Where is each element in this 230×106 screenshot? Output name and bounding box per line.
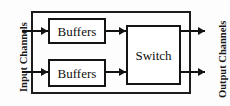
switch-block: Switch [126, 25, 181, 85]
output-arrowhead-1 [198, 27, 205, 35]
buffers-block-2-label: Buffers [58, 67, 97, 80]
buffers-to-switch-arrowhead-1 [119, 27, 126, 35]
input-arrowhead-1 [41, 27, 48, 35]
buffers-block-1-label: Buffers [58, 25, 97, 38]
input-arrowhead-2 [41, 68, 48, 76]
switch-block-label: Switch [135, 49, 171, 62]
buffers-block-1: Buffers [48, 18, 106, 44]
output-arrowhead-2 [198, 68, 205, 76]
buffers-to-switch-arrowhead-2 [119, 68, 126, 76]
input-channels-label: Input Channels [19, 22, 30, 92]
block-diagram: Input Channels Output Channels Buffers B… [0, 0, 230, 106]
output-channels-label: Output Channels [218, 21, 229, 98]
buffers-block-2: Buffers [48, 59, 106, 87]
